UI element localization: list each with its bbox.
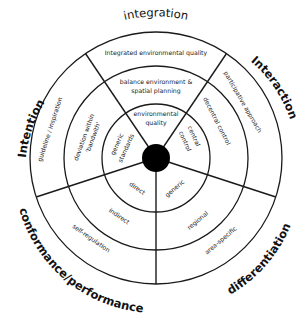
- center-hub: [142, 144, 170, 172]
- label-interaction: Interaction: [249, 53, 301, 121]
- differentiation-inner: generic: [163, 178, 186, 199]
- integration-middle-1: balance environment &: [120, 78, 193, 85]
- interaction-outer: participative approach: [222, 70, 264, 135]
- integration-middle-2: spatial planning: [131, 87, 180, 95]
- conformance-outer: self-regulation: [71, 222, 112, 254]
- sector-integration: Integrated environmental quality balance…: [105, 49, 208, 127]
- integration-outer: Integrated environmental quality: [105, 49, 208, 57]
- label-integration: integration: [122, 5, 189, 23]
- divider-upper-right: [156, 54, 227, 159]
- conformance-inner: direct: [128, 180, 147, 196]
- policy-circle-diagram: integration Interaction Intention confor…: [0, 0, 306, 330]
- sector-conformance: self-regulation indirect direct: [71, 180, 147, 254]
- differentiation-outer: area-specific: [203, 224, 239, 256]
- conformance-middle: indirect: [108, 206, 132, 225]
- differentiation-middle: regional: [186, 209, 211, 231]
- integration-inner-2: quality: [145, 119, 167, 127]
- integration-inner-1: environmental: [134, 110, 179, 117]
